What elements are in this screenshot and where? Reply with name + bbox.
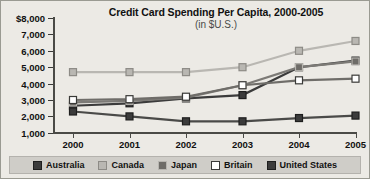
data-point-marker (183, 118, 190, 125)
data-point-marker (70, 97, 77, 104)
series-line (73, 111, 356, 121)
data-point-marker (352, 37, 359, 44)
legend-swatch-icon (98, 161, 107, 170)
data-point-marker (183, 93, 190, 100)
data-point-marker (126, 113, 133, 120)
data-point-marker (352, 58, 359, 65)
data-point-marker (126, 96, 133, 103)
legend-swatch-icon (211, 161, 220, 170)
data-point-marker (239, 92, 246, 99)
legend-label: Japan (171, 160, 197, 170)
legend-item[interactable]: Canada (98, 160, 144, 170)
chart-frame: Credit Card Spending Per Capita, 2000-20… (0, 0, 370, 179)
data-point-marker (239, 82, 246, 89)
legend-item[interactable]: Britain (211, 160, 253, 170)
data-point-marker (70, 108, 77, 115)
data-point-marker (183, 69, 190, 76)
chart-legend: AustraliaCanadaJapanBritainUnited States (9, 156, 361, 174)
data-point-marker (239, 118, 246, 125)
legend-item[interactable]: Japan (158, 160, 197, 170)
series-line (73, 41, 356, 72)
legend-label: Canada (111, 160, 144, 170)
data-point-marker (239, 64, 246, 71)
series-plot-area (1, 1, 370, 151)
data-point-marker (126, 69, 133, 76)
legend-label: United States (280, 160, 338, 170)
data-point-marker (296, 47, 303, 54)
legend-item[interactable]: Australia (33, 160, 85, 170)
legend-swatch-icon (33, 161, 42, 170)
legend-swatch-icon (267, 161, 276, 170)
data-point-marker (352, 112, 359, 119)
data-point-marker (352, 75, 359, 82)
data-point-marker (296, 64, 303, 71)
legend-item[interactable]: United States (267, 160, 338, 170)
data-point-marker (296, 115, 303, 122)
data-point-marker (296, 77, 303, 84)
legend-label: Britain (224, 160, 253, 170)
legend-swatch-icon (158, 161, 167, 170)
data-point-marker (70, 69, 77, 76)
legend-label: Australia (46, 160, 85, 170)
